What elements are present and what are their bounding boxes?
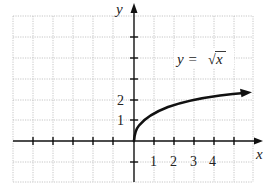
svg-text:y =: y = [175,51,198,67]
equation-arg: x [215,51,223,67]
tick-label-x-3: 3 [190,154,197,169]
sqrt-function-graph: y x 2 1 1 2 3 4 y = √ x [0,0,263,191]
x-axis-arrow-icon [254,138,263,145]
y-axis-label: y [114,1,123,17]
y-axis [130,8,138,182]
tick-label-y-1: 1 [117,113,124,128]
x-axis-label: x [255,146,263,162]
tick-label-x-1: 1 [150,154,157,169]
y-axis-arrow-icon [131,3,138,13]
equation-annotation: y = √ x [174,48,234,68]
equation-lhs: y = [175,51,198,67]
radical-icon: √ [208,52,216,67]
tick-label-y-2: 2 [117,93,124,108]
tick-label-x-2: 2 [170,154,177,169]
tick-label-x-4: 4 [209,154,216,169]
curve-arrow-icon [240,89,252,97]
grid [13,16,253,182]
